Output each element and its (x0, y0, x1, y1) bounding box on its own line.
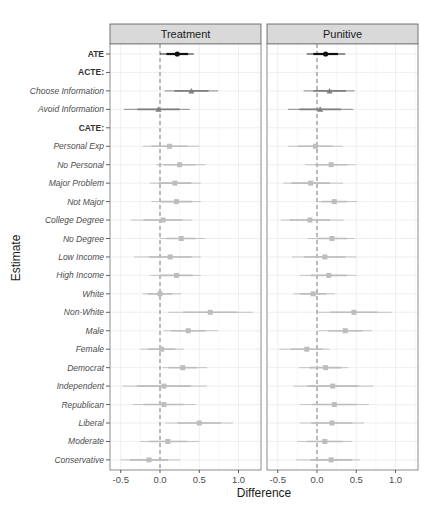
point-estimate (177, 162, 182, 167)
point-estimate (197, 421, 202, 426)
x-tick-label: 0.5 (193, 474, 206, 485)
point-estimate (158, 291, 163, 296)
point-estimate (174, 273, 179, 278)
y-tick-label: College Degree (45, 215, 104, 225)
x-tick-label: -0.5 (270, 474, 286, 485)
y-tick-label: ACTE: (78, 67, 104, 77)
y-tick-label: High Income (56, 270, 104, 280)
point-estimate (323, 365, 328, 370)
point-estimate (311, 291, 316, 296)
coefficient-plot: ATEACTE:Choose InformationAvoid Informat… (0, 0, 438, 517)
facet-panels: Treatment-0.50.00.51.0Punitive-0.50.00.5… (110, 24, 418, 485)
point-estimate (329, 421, 334, 426)
y-axis-title: Estimate (9, 234, 23, 281)
y-tick-label: CATE: (79, 123, 105, 133)
y-tick-label: No Personal (57, 160, 105, 170)
point-estimate (323, 51, 328, 56)
point-estimate (172, 181, 177, 186)
panel-punitive: Punitive-0.50.00.51.0 (267, 24, 418, 485)
y-tick-label: Low Income (58, 252, 104, 262)
y-tick-label: Male (86, 326, 105, 336)
y-tick-label: Liberal (78, 418, 105, 428)
point-estimate (168, 254, 173, 259)
point-estimate (304, 347, 309, 352)
facet-title: Punitive (323, 28, 362, 40)
y-tick-label: Independent (57, 381, 105, 391)
y-tick-label: No Degree (63, 234, 104, 244)
y-tick-label: Non-White (64, 307, 104, 317)
y-tick-label: Avoid Information (37, 104, 104, 114)
point-estimate (174, 199, 179, 204)
point-estimate (313, 144, 318, 149)
point-estimate (332, 402, 337, 407)
panel-treatment: Treatment-0.50.00.51.0 (110, 24, 261, 485)
point-estimate (322, 254, 327, 259)
point-estimate (167, 144, 172, 149)
point-estimate (186, 328, 191, 333)
y-tick-label: Not Major (67, 197, 105, 207)
facet-title: Treatment (161, 28, 211, 40)
point-estimate (329, 162, 334, 167)
point-estimate (326, 273, 331, 278)
x-tick-label: 1.0 (232, 474, 245, 485)
y-tick-label: Personal Exp (53, 141, 104, 151)
point-estimate (351, 310, 356, 315)
y-tick-label: Moderate (68, 436, 104, 446)
point-estimate (329, 457, 334, 462)
y-tick-label: Republican (61, 400, 104, 410)
x-axis-title: Difference (237, 486, 292, 500)
point-estimate (343, 328, 348, 333)
y-tick-label: Democrat (67, 363, 104, 373)
y-tick-label: White (82, 289, 104, 299)
point-estimate (330, 384, 335, 389)
point-estimate (175, 51, 180, 56)
point-estimate (161, 218, 166, 223)
point-estimate (307, 218, 312, 223)
point-estimate (329, 236, 334, 241)
point-estimate (165, 439, 170, 444)
point-estimate (332, 199, 337, 204)
point-estimate (161, 384, 166, 389)
point-estimate (159, 347, 164, 352)
point-estimate (208, 310, 213, 315)
x-tick-label: 0.5 (350, 474, 363, 485)
x-tick-label: 0.0 (153, 474, 166, 485)
y-tick-label: Major Problem (49, 178, 104, 188)
x-tick-label: -0.5 (113, 474, 129, 485)
x-tick-label: 1.0 (389, 474, 402, 485)
y-tick-label: Female (76, 344, 105, 354)
y-tick-label: ATE (88, 49, 105, 59)
point-estimate (161, 402, 166, 407)
y-tick-label: Conservative (54, 455, 104, 465)
point-estimate (180, 365, 185, 370)
point-estimate (308, 181, 313, 186)
point-estimate (322, 439, 327, 444)
point-estimate (179, 236, 184, 241)
x-tick-label: 0.0 (310, 474, 323, 485)
y-tick-label: Choose Information (30, 86, 104, 96)
y-axis-labels: ATEACTE:Choose InformationAvoid Informat… (30, 49, 110, 465)
point-estimate (147, 457, 152, 462)
